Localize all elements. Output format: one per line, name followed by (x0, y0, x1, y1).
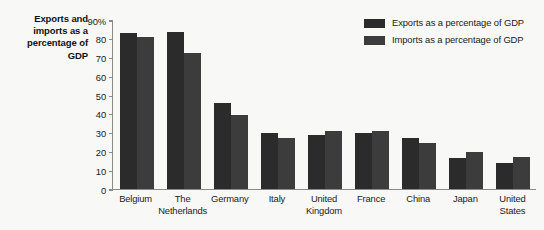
bar (308, 135, 325, 189)
bar (402, 138, 419, 189)
bar (261, 133, 278, 189)
y-axis-tick: 40 (96, 110, 113, 120)
y-axis-tick: 30 (96, 129, 113, 139)
y-axis-tick-label: 80 (96, 34, 106, 45)
bar (120, 33, 137, 189)
bar-series-container (113, 21, 536, 189)
x-axis-category-label-line: United (485, 193, 540, 205)
bar (231, 115, 248, 189)
bar-group (443, 21, 490, 189)
y-axis-tick: 50 (96, 91, 113, 101)
chart-title-line: Exports and (0, 13, 88, 25)
chart-title-line: imports as a (0, 25, 88, 37)
y-axis-tick: 70 (96, 54, 113, 64)
bar (355, 133, 372, 189)
bar (449, 158, 466, 189)
bar (496, 163, 513, 189)
chart-title-line: percentage of (0, 37, 88, 49)
x-axis-category-label-line: States (485, 205, 540, 217)
bar (137, 37, 154, 189)
y-axis-tick-mark (109, 189, 113, 190)
x-axis-labels: BelgiumTheNetherlandsGermanyItalyUnitedK… (112, 193, 536, 229)
x-axis-category-label-line: Netherlands (155, 205, 210, 217)
bar-group (349, 21, 396, 189)
y-axis-tick-label: 60 (96, 72, 106, 83)
bar (466, 152, 483, 189)
y-axis-tick-label: 70 (96, 53, 106, 64)
y-axis-tick-label: 20 (96, 147, 106, 158)
bar-group (207, 21, 254, 189)
bar-group (396, 21, 443, 189)
bar-chart: Exports andimports as apercentage ofGDP … (0, 0, 544, 230)
bar (513, 157, 530, 189)
y-axis-tick-label: 0 (101, 185, 106, 196)
bar (167, 32, 184, 189)
bar (372, 131, 389, 189)
x-axis-category-label: UnitedStates (485, 193, 540, 216)
y-axis-tick-label: 50 (96, 91, 106, 102)
y-axis-tick-label: 40 (96, 109, 106, 120)
y-axis-tick-label: 10 (96, 166, 106, 177)
chart-title-line: GDP (0, 50, 88, 62)
y-axis-tick: 20 (96, 147, 113, 157)
bar (214, 103, 231, 189)
bar (184, 53, 201, 189)
chart-title: Exports andimports as apercentage ofGDP (0, 13, 88, 62)
y-axis-tick: 80 (96, 35, 113, 45)
bar (419, 143, 436, 189)
y-axis-tick-label: 90% (88, 16, 106, 27)
bar-group (160, 21, 207, 189)
bar-group (490, 21, 537, 189)
bar-group (301, 21, 348, 189)
bar (325, 131, 342, 189)
y-axis-tick: 90% (88, 16, 113, 26)
bar-group (113, 21, 160, 189)
plot-area: 0102030405060708090% (112, 21, 536, 190)
y-axis-tick: 10 (96, 166, 113, 176)
bar (278, 138, 295, 189)
y-axis-tick: 60 (96, 72, 113, 82)
y-axis-tick-label: 30 (96, 128, 106, 139)
bar-group (254, 21, 301, 189)
x-axis-category-label-line: Kingdom (296, 205, 351, 217)
